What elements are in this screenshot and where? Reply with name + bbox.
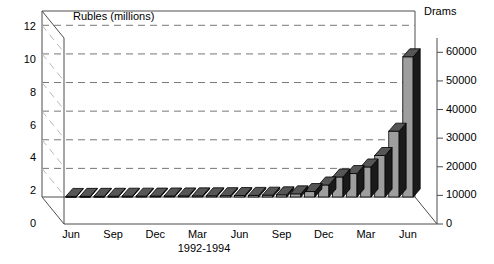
bar-series [66, 49, 420, 198]
chart-container: Rubles (millions) Drams 1992-1994 024681… [0, 0, 494, 264]
plot-area [0, 0, 494, 264]
